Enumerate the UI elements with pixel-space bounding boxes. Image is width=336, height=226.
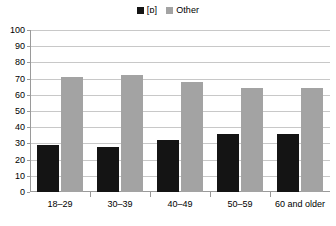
x-tick-label-1: 18–29 bbox=[30, 198, 90, 214]
y-tick-label-90: 90 bbox=[15, 42, 25, 51]
bar-group-5 bbox=[270, 30, 330, 192]
y-tick-label-40: 40 bbox=[15, 123, 25, 132]
bar-2-series-0[interactable] bbox=[97, 147, 119, 192]
y-tick-label-80: 80 bbox=[15, 58, 25, 67]
legend-entry-0[interactable]: [ɒ] bbox=[137, 6, 157, 15]
y-tick-label-10: 10 bbox=[15, 171, 25, 180]
bar-1-series-0[interactable] bbox=[37, 145, 59, 192]
y-tick-label-70: 70 bbox=[15, 74, 25, 83]
y-tick-mark-0 bbox=[27, 192, 30, 193]
bar-2-series-1[interactable] bbox=[121, 75, 143, 192]
bar-5-series-1[interactable] bbox=[301, 88, 323, 192]
y-axis: 1009080706050403020100 bbox=[0, 30, 30, 192]
bar-group-3 bbox=[150, 30, 210, 192]
x-axis: 18–2930–3940–4950–5960 and older bbox=[30, 198, 330, 214]
x-tick-label-4: 50–59 bbox=[210, 198, 270, 214]
y-tick-label-30: 30 bbox=[15, 139, 25, 148]
legend-label-series-0: [ɒ] bbox=[147, 6, 157, 15]
y-tick-label-60: 60 bbox=[15, 90, 25, 99]
bar-chart: [ɒ] Other 1009080706050403020100 18–2930… bbox=[0, 0, 336, 226]
y-tick-label-0: 0 bbox=[20, 188, 25, 197]
bar-1-series-1[interactable] bbox=[61, 77, 83, 192]
bar-5-series-0[interactable] bbox=[277, 134, 299, 192]
bar-group-4 bbox=[210, 30, 270, 192]
x-tick-label-2: 30–39 bbox=[90, 198, 150, 214]
bars-layer bbox=[30, 30, 330, 192]
legend-swatch-icon-series-1 bbox=[166, 7, 173, 14]
bar-group-1 bbox=[30, 30, 90, 192]
bar-group-2 bbox=[90, 30, 150, 192]
legend-label-series-1: Other bbox=[176, 6, 199, 15]
legend-swatch-icon-series-0 bbox=[137, 7, 144, 14]
bar-3-series-0[interactable] bbox=[157, 140, 179, 192]
gridline-0 bbox=[31, 192, 330, 193]
x-tick-label-3: 40–49 bbox=[150, 198, 210, 214]
bar-4-series-1[interactable] bbox=[241, 88, 263, 192]
y-tick-label-50: 50 bbox=[15, 107, 25, 116]
bar-4-series-0[interactable] bbox=[217, 134, 239, 192]
legend-entry-1[interactable]: Other bbox=[166, 6, 199, 15]
x-tick-label-5: 60 and older bbox=[270, 198, 330, 214]
chart-legend: [ɒ] Other bbox=[0, 2, 336, 18]
y-tick-label-20: 20 bbox=[15, 155, 25, 164]
y-tick-label-100: 100 bbox=[10, 26, 25, 35]
bar-3-series-1[interactable] bbox=[181, 82, 203, 192]
